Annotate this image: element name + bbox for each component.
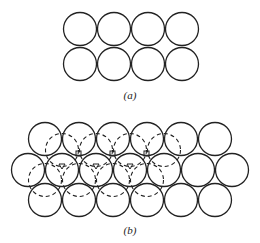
packing-diagram [0, 0, 260, 243]
label-b: (b) [110, 224, 150, 236]
label-a: (a) [110, 89, 150, 101]
square-packing [64, 13, 199, 81]
